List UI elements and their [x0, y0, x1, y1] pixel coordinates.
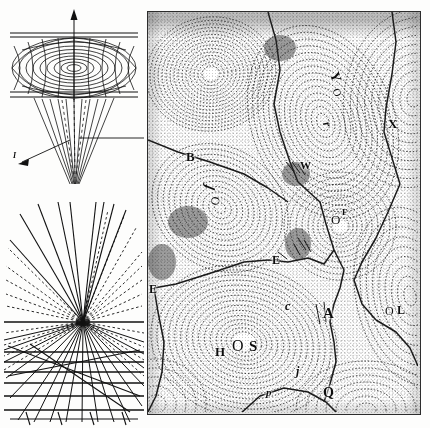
ground-plane-rungs: [4, 352, 144, 410]
cell-field-canvas: [148, 12, 420, 414]
figure-plate: I: [0, 0, 430, 428]
label-p: p: [266, 387, 272, 398]
label-L-O: O: [385, 305, 394, 317]
perspective-svg: [4, 200, 144, 422]
vanishing-point-blot: [76, 318, 90, 326]
label-F: F: [342, 208, 348, 217]
label-E-left: E: [149, 283, 157, 295]
cellular-vortex-field-engraving: B f O Y O r X W O F E E c A O L H O S j …: [147, 11, 421, 415]
label-j: j: [296, 365, 299, 377]
perspective-vanishing-point-diagram: [4, 200, 144, 422]
label-H: H: [215, 345, 225, 358]
upper-dashed-rays: [6, 210, 142, 322]
cell-field-svg: [148, 12, 418, 412]
label-I: I: [13, 152, 16, 160]
label-c: c: [285, 300, 290, 312]
label-F-O: O: [331, 213, 340, 226]
pointer-arrow: [18, 140, 70, 166]
label-W: W: [300, 160, 311, 171]
funnel-neck: [34, 98, 114, 184]
label-S: S: [249, 339, 257, 354]
funnel-svg: [4, 6, 144, 202]
label-Q: Q: [323, 386, 334, 400]
vortex-funnel-diagram: I: [4, 6, 144, 202]
bottom-scale-stub: [4, 410, 144, 426]
label-A: A: [323, 306, 334, 321]
label-S-O: O: [232, 338, 244, 354]
label-X: X: [388, 117, 397, 130]
label-B: B: [186, 150, 195, 163]
label-E-upper: E: [272, 254, 280, 266]
label-L: L: [397, 304, 405, 316]
